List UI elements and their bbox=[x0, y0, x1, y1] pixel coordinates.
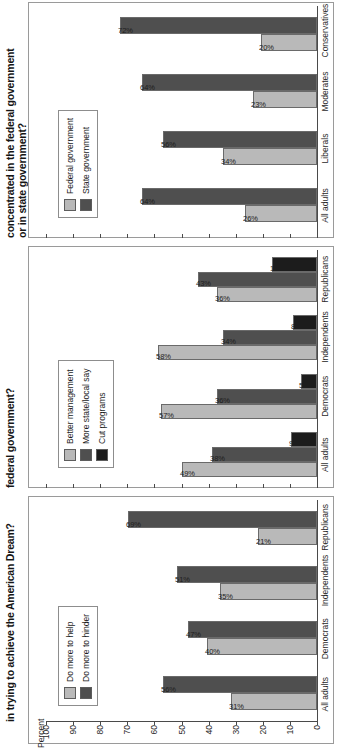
legend-swatch-icon bbox=[80, 199, 92, 211]
bar-group: 23%64% bbox=[46, 69, 317, 115]
legend-swatch-icon bbox=[80, 449, 92, 461]
bar-group: 35%51% bbox=[46, 560, 317, 606]
y-axis-tick-label: 20 bbox=[258, 725, 268, 747]
bar-value-label: 56% bbox=[161, 685, 176, 694]
legend-swatch-icon bbox=[96, 449, 108, 461]
rotated-figure-wrapper: in trying to achieve the American Dream?… bbox=[0, 0, 354, 750]
x-axis-tick-label: Democrats bbox=[320, 371, 330, 421]
bar: 9% bbox=[291, 432, 317, 447]
bar-value-label: 9% bbox=[289, 439, 300, 448]
legend-label: Cut programs bbox=[97, 393, 107, 445]
legend-item[interactable]: Cut programs bbox=[96, 368, 108, 461]
y-axis-tick-mark bbox=[154, 484, 155, 488]
x-axis-tick-label: Independents bbox=[320, 560, 330, 606]
bar: 16% bbox=[272, 257, 317, 272]
y-axis-tick-mark bbox=[46, 234, 47, 238]
x-axis-tick-label: Republicans bbox=[320, 505, 330, 551]
y-axis-tick-label: 80 bbox=[95, 725, 105, 747]
bar: 34% bbox=[223, 149, 317, 166]
bar: 8% bbox=[293, 315, 317, 330]
bar: 64% bbox=[142, 75, 317, 92]
chart-panel-1: in trying to achieve the American Dream?… bbox=[0, 494, 354, 750]
y-axis-tick-mark bbox=[317, 484, 318, 488]
bar: 69% bbox=[128, 511, 317, 528]
x-axis-tick-label: Moderates bbox=[320, 69, 330, 115]
panel-title-line: or in state government? bbox=[16, 6, 28, 238]
bar-value-label: 58% bbox=[156, 352, 171, 361]
bar: 51% bbox=[177, 566, 317, 583]
y-axis-tick-label: 90 bbox=[68, 725, 78, 747]
legend-item[interactable]: More state/local say bbox=[80, 368, 92, 461]
x-axis-tick-label: Conservatives bbox=[320, 12, 330, 58]
legend-item[interactable]: State government bbox=[80, 118, 92, 211]
y-axis-tick-mark bbox=[263, 234, 264, 238]
y-axis-tick-label: 70 bbox=[122, 725, 132, 747]
bar: 72% bbox=[120, 18, 317, 35]
legend-label: Federal government bbox=[65, 118, 75, 194]
y-axis-tick-label: 30 bbox=[231, 725, 241, 747]
legend-item[interactable]: Do more to help bbox=[64, 614, 76, 699]
legend-swatch-icon bbox=[80, 687, 92, 699]
legend-item[interactable]: Federal government bbox=[64, 118, 76, 211]
bar-value-label: 20% bbox=[259, 44, 274, 53]
y-axis-tick-label: 50 bbox=[177, 725, 187, 747]
y-axis-tick-mark bbox=[236, 234, 237, 238]
bar-value-label: 64% bbox=[140, 198, 155, 207]
figure: in trying to achieve the American Dream?… bbox=[0, 0, 354, 750]
bar: 56% bbox=[163, 132, 317, 149]
legend-swatch-icon bbox=[64, 199, 76, 211]
bar-value-label: 35% bbox=[218, 592, 233, 601]
bar-group: 20%72% bbox=[46, 12, 317, 58]
x-axis-tick-label: All adults bbox=[320, 183, 330, 229]
bar: 56% bbox=[163, 676, 317, 693]
x-axis-tick-label: Liberals bbox=[320, 126, 330, 172]
chart-legend: Do more to helpDo more to hinder bbox=[58, 606, 98, 706]
y-axis-tick-mark bbox=[182, 484, 183, 488]
bar-value-label: 26% bbox=[243, 215, 258, 224]
bar-value-label: 34% bbox=[221, 337, 236, 346]
legend-label: Do more to help bbox=[65, 622, 75, 682]
y-axis-tick-label: 100 bbox=[41, 725, 51, 747]
x-axis-tick-label: All adults bbox=[320, 671, 330, 717]
x-axis-tick-label: Democrats bbox=[320, 616, 330, 662]
legend-label: Better management bbox=[65, 369, 75, 444]
bar: 26% bbox=[245, 206, 317, 223]
bar: 31% bbox=[231, 693, 317, 710]
y-axis-tick-mark bbox=[154, 234, 155, 238]
y-axis-tick-mark bbox=[100, 234, 101, 238]
y-axis-tick-mark bbox=[127, 234, 128, 238]
bar-value-label: 21% bbox=[256, 537, 271, 546]
y-axis-tick-mark bbox=[290, 484, 291, 488]
y-axis-tick-mark bbox=[290, 234, 291, 238]
panel-title-line: concentrated in the federal government bbox=[4, 6, 16, 238]
bar-group: 21%69% bbox=[46, 505, 317, 551]
bar: 36% bbox=[217, 389, 317, 404]
panel-row: in trying to achieve the American Dream?… bbox=[0, 0, 354, 750]
x-axis-tick-label: Republicans bbox=[320, 254, 330, 304]
y-axis-tick-mark bbox=[182, 234, 183, 238]
x-axis-tick-label: All adults bbox=[320, 430, 330, 480]
bar-group: 58%34%8% bbox=[46, 313, 317, 363]
bar: 49% bbox=[182, 462, 317, 477]
y-axis-tick-mark bbox=[127, 484, 128, 488]
bar: 20% bbox=[261, 35, 317, 52]
legend-swatch-icon bbox=[64, 687, 76, 699]
bar-value-label: 56% bbox=[161, 141, 176, 150]
bar: 57% bbox=[161, 404, 317, 419]
bar-value-label: 64% bbox=[140, 84, 155, 93]
y-axis-tick-mark bbox=[73, 234, 74, 238]
y-axis-tick-label: 10 bbox=[285, 725, 295, 747]
bar-value-label: 47% bbox=[186, 630, 201, 639]
legend-item[interactable]: Do more to hinder bbox=[80, 614, 92, 699]
bar: 21% bbox=[258, 528, 317, 545]
legend-label: More state/local say bbox=[81, 368, 91, 444]
panel-title-line: in trying to achieve the American Dream? bbox=[4, 500, 16, 722]
legend-item[interactable]: Better management bbox=[64, 368, 76, 461]
bar-value-label: 57% bbox=[159, 411, 174, 420]
legend-label: State government bbox=[81, 127, 91, 194]
bar: 34% bbox=[223, 330, 317, 345]
y-axis-tick-mark bbox=[100, 484, 101, 488]
y-axis-tick-mark bbox=[209, 234, 210, 238]
bar-value-label: 72% bbox=[118, 27, 133, 36]
y-axis-tick-label: 40 bbox=[204, 725, 214, 747]
